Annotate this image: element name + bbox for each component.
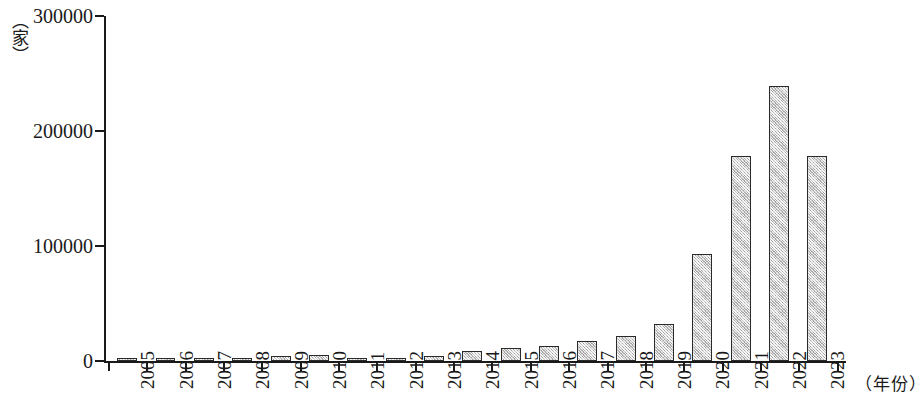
bar-2021 bbox=[731, 156, 751, 361]
bar-2012 bbox=[386, 358, 406, 361]
bar-2015 bbox=[501, 348, 521, 361]
x-axis-tick-label: 2015 bbox=[521, 367, 543, 389]
y-axis-tick-label: 100000 bbox=[33, 236, 93, 256]
bar-2022 bbox=[769, 86, 789, 361]
x-axis-tick-label: 2013 bbox=[444, 367, 466, 389]
x-axis-tick-label: 2005 bbox=[137, 367, 159, 389]
y-axis-tick bbox=[95, 360, 104, 362]
x-axis-tick-label: 2011 bbox=[367, 367, 389, 389]
x-axis-tick-label: 2010 bbox=[329, 367, 351, 389]
x-axis-tick-label: 2019 bbox=[674, 367, 696, 389]
y-axis-tick-label: 300000 bbox=[33, 6, 93, 26]
x-axis-tick-label: 2018 bbox=[636, 367, 658, 389]
y-axis-tick bbox=[95, 130, 104, 132]
x-axis-tick-label: 2009 bbox=[291, 367, 313, 389]
y-axis-tick-label: 0 bbox=[83, 351, 93, 371]
x-axis-tick-label: 2021 bbox=[751, 367, 773, 389]
x-axis-tick bbox=[108, 363, 110, 371]
x-axis-tick-label: 2008 bbox=[252, 367, 274, 389]
bar-2014 bbox=[462, 351, 482, 361]
bar-2019 bbox=[654, 324, 674, 361]
plot-area: 0100000200000300000 bbox=[104, 16, 846, 363]
y-axis-unit-label: （家） bbox=[2, 12, 28, 63]
x-axis-tick-label: 2012 bbox=[406, 367, 428, 389]
bar-2018 bbox=[616, 336, 636, 361]
y-axis-line bbox=[104, 16, 106, 363]
x-axis-tick-label: 2016 bbox=[559, 367, 581, 389]
x-axis-title: （年份） bbox=[855, 374, 919, 394]
bar-2020 bbox=[692, 254, 712, 361]
x-axis-tick-label: 2006 bbox=[176, 367, 198, 389]
bar-2023 bbox=[807, 156, 827, 361]
x-axis-tick-label: 2014 bbox=[482, 367, 504, 389]
bar-2009 bbox=[271, 356, 291, 361]
bar-2005 bbox=[117, 358, 137, 361]
bar-2011 bbox=[347, 358, 367, 361]
x-axis-tick-label: 2022 bbox=[789, 367, 811, 389]
x-axis-tick-label: 2023 bbox=[827, 367, 849, 389]
bar-2006 bbox=[156, 358, 176, 361]
x-axis-tick-label: 2007 bbox=[214, 367, 236, 389]
x-axis-tick-label: 2020 bbox=[712, 367, 734, 389]
y-axis-tick-label: 200000 bbox=[33, 121, 93, 141]
bar-2017 bbox=[577, 341, 597, 361]
bar-2008 bbox=[232, 358, 252, 361]
x-axis-tick-label: 2017 bbox=[597, 367, 619, 389]
y-axis-tick bbox=[95, 245, 104, 247]
y-axis-tick bbox=[95, 15, 104, 17]
